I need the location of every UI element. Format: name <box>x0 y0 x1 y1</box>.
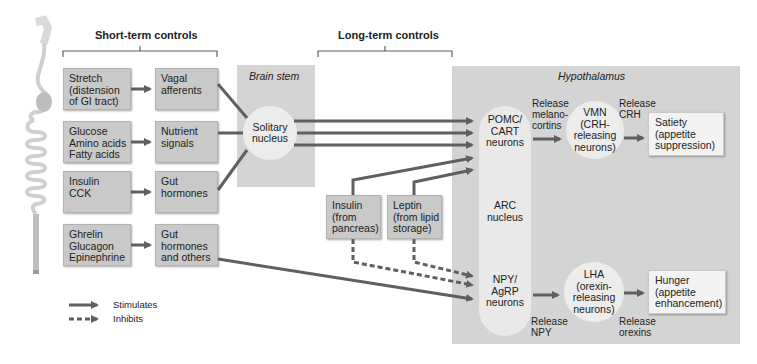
legend-stimulates-label: Stimulates <box>113 299 157 310</box>
legend-inhibits-label: Inhibits <box>113 313 143 324</box>
